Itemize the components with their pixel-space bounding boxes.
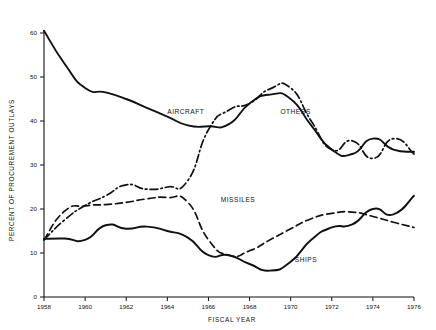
y-tick-label: 50: [30, 73, 37, 80]
chart-container: 0102030405060195819601962196419661968197…: [0, 0, 436, 330]
y-tick-label: 20: [30, 205, 37, 212]
x-tick-label: 1976: [407, 303, 421, 310]
series-lines: [44, 31, 414, 271]
series-line-others: [44, 83, 414, 240]
series-label-ships: SHIPS: [295, 256, 317, 263]
series-line-missiles: [44, 196, 414, 257]
x-tick-label: 1964: [160, 303, 174, 310]
chart-axes: [40, 30, 414, 301]
x-tick-label: 1958: [37, 303, 51, 310]
series-line-ships: [44, 196, 414, 271]
series-label-missiles: MISSILES: [221, 196, 256, 203]
x-tick-label: 1960: [78, 303, 92, 310]
y-tick-label: 10: [30, 249, 37, 256]
line-chart: 0102030405060195819601962196419661968197…: [0, 0, 436, 330]
y-tick-label: 60: [30, 29, 37, 36]
series-line-aircraft: [44, 31, 414, 156]
series-label-aircraft: AIRCRAFT: [167, 108, 204, 115]
series-label-others: OTHERS: [280, 108, 311, 115]
x-tick-label: 1974: [366, 303, 380, 310]
x-tick-label: 1966: [202, 303, 216, 310]
x-tick-label: 1972: [325, 303, 339, 310]
y-tick-label: 40: [30, 117, 37, 124]
x-tick-label: 1968: [243, 303, 257, 310]
x-tick-label: 1962: [119, 303, 133, 310]
tick-labels: 0102030405060195819601962196419661968197…: [30, 29, 421, 310]
x-axis-title: FISCAL YEAR: [208, 316, 256, 323]
x-tick-label: 1970: [284, 303, 298, 310]
y-tick-label: 30: [30, 161, 37, 168]
y-axis-title: PERCENT OF PROCUREMENT OUTLAYS: [8, 99, 15, 241]
y-tick-label: 0: [34, 293, 38, 300]
